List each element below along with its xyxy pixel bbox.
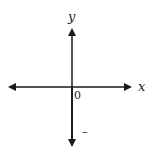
x-axis-label: x [138,80,145,93]
y-axis-label: y [68,10,75,23]
origin-label: 0 [74,90,81,101]
coordinate-axes [0,0,156,150]
tick-mark-label: – [82,126,88,137]
